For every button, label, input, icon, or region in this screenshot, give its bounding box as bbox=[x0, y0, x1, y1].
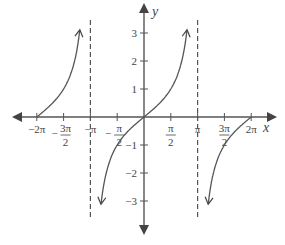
y-tick-label: −3 bbox=[125, 195, 137, 207]
x-tick-label-sign: − bbox=[51, 127, 57, 139]
x-tick-label-sign: − bbox=[105, 127, 111, 139]
y-tick-label: 2 bbox=[132, 55, 138, 67]
x-tick-label: 3π bbox=[219, 122, 231, 134]
x-tick-label: 3π bbox=[60, 122, 72, 134]
x-tick-label: π bbox=[168, 122, 174, 134]
y-axis-label: y bbox=[150, 4, 159, 19]
x-tick-label: π bbox=[116, 122, 122, 134]
y-tick-label: −2 bbox=[125, 167, 137, 179]
y-tick-label: 1 bbox=[132, 83, 138, 95]
y-tick-label: −1 bbox=[125, 139, 137, 151]
y-tick-label: 3 bbox=[132, 27, 138, 39]
x-tick-label-den: 2 bbox=[63, 136, 69, 148]
x-tick-label: 2π bbox=[246, 123, 258, 135]
x-tick-label: −2π bbox=[28, 123, 46, 135]
left-branch bbox=[37, 31, 80, 117]
x-axis-label: x bbox=[262, 120, 270, 135]
tangent-chart: xy−2π3π−2−ππ−2π2π3π22π321−1−2−3 bbox=[0, 0, 285, 245]
x-tick-label-den: 2 bbox=[168, 136, 174, 148]
